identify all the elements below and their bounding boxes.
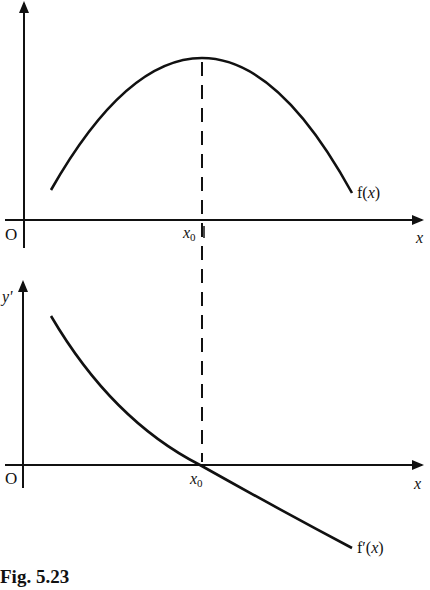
bottom-y-axis-label: y': [0, 288, 13, 306]
top-x0-label: x0: [182, 224, 196, 243]
figure-caption: Fig. 5.23: [0, 566, 69, 588]
top-plot: O x0 x f(x): [5, 3, 423, 248]
top-x-axis-label: x: [415, 229, 423, 246]
top-origin-label: O: [5, 225, 17, 244]
bottom-x-axis-label: x: [413, 475, 421, 492]
bottom-plot: y' O x0 x f′(x): [0, 282, 422, 557]
bottom-origin-label: O: [5, 469, 17, 488]
figure-canvas: O x0 x f(x) y' O x0 x f′(x): [0, 0, 430, 590]
f-curve-label: f(x): [357, 184, 380, 202]
f-curve: [51, 58, 352, 193]
f-prime-curve-label: f′(x): [357, 539, 384, 557]
bottom-x0-label: x0: [189, 470, 203, 489]
